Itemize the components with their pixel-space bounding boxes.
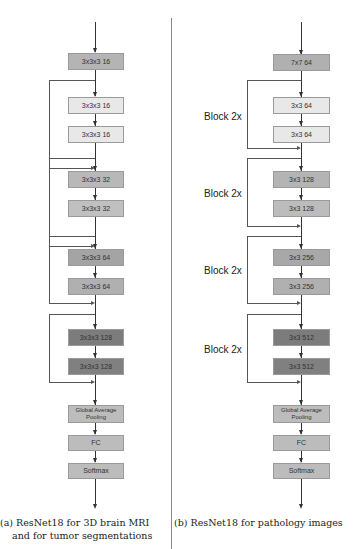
layer-block2-conv2: 3x3x3 32 — [68, 200, 124, 217]
skip-connection — [49, 236, 95, 237]
block-label: Block 2x — [204, 265, 242, 276]
layer-block4-conv1: 3x3 512 — [273, 329, 330, 346]
layer-block4-conv1: 3x3x3 128 — [68, 329, 124, 346]
block-label: Block 2x — [204, 344, 242, 355]
skip-connection — [247, 148, 297, 149]
skip-connection — [247, 158, 248, 226]
layer-fc: FC — [273, 435, 330, 451]
layer-softmax: Softmax — [273, 463, 330, 479]
layer-block3-conv2: 3x3x3 64 — [68, 278, 124, 295]
layer-block2-conv1: 3x3 128 — [273, 171, 330, 188]
block-label: Block 2x — [204, 188, 242, 199]
layer-block2-conv2: 3x3 128 — [273, 200, 330, 217]
layer-block1-conv1: 3x3x3 16 — [68, 97, 124, 114]
layer-block3-conv1: 3x3x3 64 — [68, 249, 124, 266]
layer-block1-conv1: 3x3 64 — [273, 97, 330, 114]
layer-conv1: 7x7 64 — [273, 54, 330, 71]
layer-conv1: 3x3x3 16 — [68, 53, 124, 70]
skip-connection — [49, 382, 91, 383]
layer-block4-conv2: 3x3 512 — [273, 358, 330, 375]
skip-connection — [247, 80, 248, 148]
layer-block1-conv2: 3x3x3 16 — [68, 126, 124, 143]
skip-connection — [49, 168, 91, 169]
skip-connection — [49, 246, 91, 247]
layer-block3-conv2: 3x3 256 — [273, 278, 330, 295]
skip-connection — [49, 158, 50, 246]
caption-b-line1: (b) ResNet18 for pathology images — [174, 516, 343, 529]
layer-block3-conv1: 3x3 256 — [273, 249, 330, 266]
skip-connection — [247, 226, 297, 227]
skip-connection — [247, 314, 301, 315]
skip-connection — [49, 158, 95, 159]
skip-connection — [49, 303, 91, 304]
panel-b-resnet18-pathology: 7x7 64 Block 2x 3x3 64 3x3 64 Block 2x 3… — [172, 0, 360, 549]
output-line — [95, 479, 96, 505]
skip-connection — [247, 303, 297, 304]
layer-global-average-pooling: Global Average Pooling — [273, 405, 330, 423]
layer-block1-conv2: 3x3 64 — [273, 126, 330, 143]
panel-a-resnet18-3d: 3x3x3 16 3x3x3 16 3x3x3 16 3x3x3 32 3x3x… — [0, 0, 171, 549]
layer-softmax: Softmax — [68, 463, 124, 479]
layer-block4-conv2: 3x3x3 128 — [68, 358, 124, 375]
skip-connection — [49, 80, 95, 81]
layer-block2-conv1: 3x3x3 32 — [68, 171, 124, 188]
arrow-icon — [299, 504, 303, 509]
caption-a-line1: (a) ResNet18 for 3D brain MRI — [0, 516, 149, 529]
skip-connection — [49, 80, 50, 168]
skip-connection — [49, 314, 95, 315]
skip-connection — [247, 236, 301, 237]
caption-a-line2: and for tumor segmentations — [12, 529, 152, 542]
skip-connection — [247, 382, 297, 383]
arrow-icon — [93, 504, 97, 509]
layer-fc: FC — [68, 435, 124, 451]
skip-connection — [49, 314, 50, 382]
skip-connection — [49, 236, 50, 303]
skip-connection — [247, 314, 248, 382]
layer-global-average-pooling: Global Average Pooling — [68, 405, 124, 423]
skip-connection — [247, 158, 301, 159]
block-label: Block 2x — [204, 111, 242, 122]
skip-connection — [247, 80, 301, 81]
skip-connection — [247, 236, 248, 303]
output-line — [301, 479, 302, 505]
